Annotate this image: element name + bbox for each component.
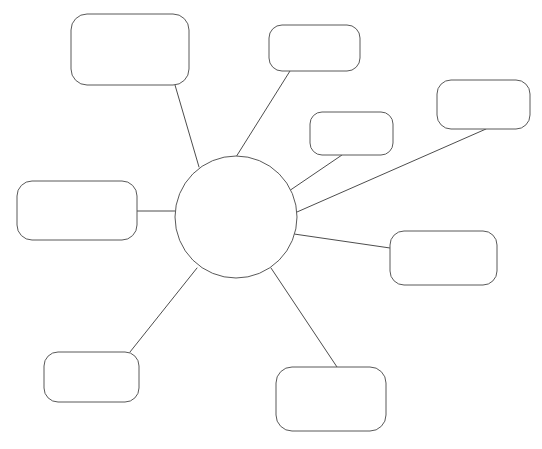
node-upper-right-inner-shape[interactable] (310, 112, 393, 155)
connector-bottom-left[interactable] (130, 268, 197, 352)
node-bottom-center[interactable] (276, 367, 386, 431)
central-concept[interactable] (175, 156, 297, 278)
node-right-middle-shape[interactable] (390, 231, 497, 285)
node-top-center-shape[interactable] (269, 25, 360, 71)
node-bottom-left[interactable] (44, 352, 139, 402)
node-bottom-left-shape[interactable] (44, 352, 139, 402)
concept-map-svg (0, 0, 542, 449)
node-upper-right-outer-shape[interactable] (437, 80, 530, 129)
node-top-left-shape[interactable] (71, 14, 189, 85)
node-upper-right-inner[interactable] (310, 112, 393, 155)
connector-bottom-center[interactable] (271, 268, 337, 367)
connector-top-center[interactable] (236, 71, 290, 157)
center-node-layer (175, 156, 297, 278)
central-concept-shape[interactable] (175, 156, 297, 278)
node-bottom-center-shape[interactable] (276, 367, 386, 431)
node-left-middle-shape[interactable] (17, 181, 137, 240)
node-top-center[interactable] (269, 25, 360, 71)
node-top-left[interactable] (71, 14, 189, 85)
connector-top-left[interactable] (175, 85, 199, 167)
diagram-canvas (0, 0, 542, 449)
node-left-middle[interactable] (17, 181, 137, 240)
connector-right-middle[interactable] (294, 234, 390, 248)
node-upper-right-outer[interactable] (437, 80, 530, 129)
node-right-middle[interactable] (390, 231, 497, 285)
connector-upper-right-inner[interactable] (289, 155, 342, 191)
